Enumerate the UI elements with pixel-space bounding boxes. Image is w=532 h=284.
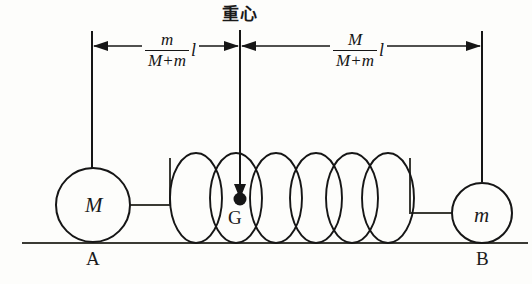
diagram-canvas xyxy=(0,0,532,284)
center-of-gravity-point-label: G xyxy=(228,208,242,227)
right-dimension-arrow-end xyxy=(466,41,481,51)
right-fraction: M M+m xyxy=(333,31,377,69)
left-fraction-denominator: M+m xyxy=(145,51,189,70)
right-connector-rod xyxy=(410,158,454,213)
center-of-gravity-dot xyxy=(234,193,247,206)
left-length-symbol: l xyxy=(189,40,196,61)
right-length-symbol: l xyxy=(377,40,384,61)
left-fraction: m M+m xyxy=(145,31,189,69)
right-dimension-arrow-start xyxy=(241,41,256,51)
left-fraction-numerator: m xyxy=(157,31,177,50)
left-dimension-label: m M+m l xyxy=(142,31,199,69)
right-den-operator: + xyxy=(350,51,362,70)
right-fraction-denominator: M+m xyxy=(333,51,377,70)
left-den-second: m xyxy=(174,51,186,70)
right-den-second: m xyxy=(362,51,374,70)
physics-diagram: 重心 m M+m l M M+m l M m G A B xyxy=(0,0,532,284)
mass-m-small-label: m xyxy=(474,205,489,226)
left-den-operator: + xyxy=(162,51,174,70)
left-den-first: M xyxy=(148,51,162,70)
spring-coils xyxy=(170,153,414,243)
left-dimension-arrow-start xyxy=(93,41,108,51)
right-den-first: M xyxy=(336,51,350,70)
spring-coil xyxy=(362,153,414,243)
center-of-gravity-title: 重心 xyxy=(222,6,258,23)
mass-m-large-label: M xyxy=(85,195,103,216)
ground-point-b-label: B xyxy=(476,249,489,268)
spring-coil xyxy=(250,153,302,243)
left-dimension-arrow-end xyxy=(224,41,239,51)
spring-coil xyxy=(170,153,222,243)
right-dimension-label: M M+m l xyxy=(330,31,387,69)
left-connector-rod xyxy=(126,158,170,205)
right-fraction-numerator: M xyxy=(344,31,366,50)
ground-point-a-label: A xyxy=(86,249,100,268)
